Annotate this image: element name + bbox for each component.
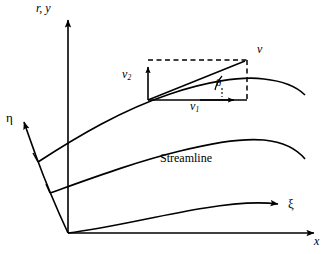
eta-axis-label: η (6, 111, 13, 124)
horizontal-axis-label: x (314, 235, 319, 247)
diagram-svg (0, 0, 335, 254)
middle-streamline-curve (50, 140, 305, 193)
figure-canvas: r, y x η ξ v v1 v2 θ Streamline (0, 0, 335, 254)
xi-axis-curve (68, 203, 278, 233)
v1-subscript: 1 (195, 105, 199, 114)
velocity-component-v1-label: v1 (190, 100, 199, 114)
vertical-axis-label: r, y (36, 2, 51, 14)
velocity-component-v2-label: v2 (122, 68, 131, 82)
streamline-label: Streamline (160, 152, 212, 164)
eta-axis-curve (24, 122, 68, 233)
velocity-resultant-vector (148, 61, 245, 100)
velocity-vector-label: v (257, 43, 262, 55)
xi-axis-label: ξ (288, 197, 294, 210)
v2-subscript: 2 (127, 73, 131, 82)
angle-theta-label: θ (216, 77, 221, 88)
